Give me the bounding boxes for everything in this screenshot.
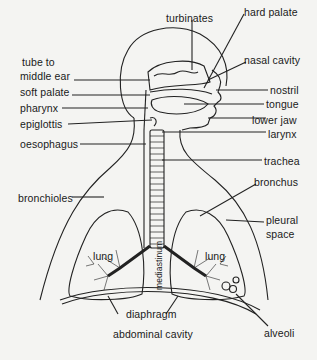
label-pleural: pleural [266, 214, 298, 226]
neck-right [180, 130, 268, 300]
label-pharynx: pharynx [20, 102, 58, 114]
turbinates-shape [154, 71, 198, 76]
label-alveoli: alveoli [264, 327, 294, 339]
label-hard-palate: hard palate [244, 6, 298, 18]
pharynx-wall [144, 90, 146, 130]
palate [150, 89, 212, 94]
epiglottis-shape [150, 118, 156, 126]
leader-bronchus [200, 184, 256, 216]
nasal-roof [148, 61, 210, 90]
label-nostril: nostril [270, 84, 299, 96]
label-soft-palate: soft palate [20, 86, 70, 98]
respiratory-diagram: turbinates hard palate tube to middle ea… [0, 0, 317, 360]
label-diaphragm: diaphragm [126, 308, 177, 320]
label-lung-left: lung [93, 250, 113, 262]
label-oesophagus: oesophagus [20, 138, 78, 150]
leader-pleural-space [226, 220, 264, 222]
label-turbinates: turbinates [166, 12, 213, 24]
label-tongue: tongue [266, 98, 299, 110]
label-abdominal-cavity: abdominal cavity [113, 328, 193, 340]
label-epiglottis: epiglottis [20, 118, 62, 130]
label-space: space [266, 228, 295, 240]
leader-epiglottis [68, 120, 152, 124]
tongue-shape [151, 97, 208, 114]
leader-alveoli [236, 294, 268, 326]
alveoli-cluster [222, 282, 230, 290]
label-lung-right: lung [205, 250, 225, 262]
label-nasal-cavity: nasal cavity [244, 54, 300, 66]
label-trachea: trachea [264, 155, 300, 167]
label-larynx: larynx [268, 128, 297, 140]
label-bronchioles: bronchioles [18, 192, 73, 204]
label-mediastinum: mediastinum [153, 241, 165, 290]
label-tube-to-middle-ear-1: tube to [22, 56, 55, 68]
label-bronchus: bronchus [254, 176, 298, 188]
leader-hard-palate [204, 14, 244, 88]
label-lower-jaw: lower jaw [252, 114, 297, 126]
face-profile [182, 70, 221, 130]
label-tube-to-middle-ear-2: middle ear [20, 70, 70, 82]
